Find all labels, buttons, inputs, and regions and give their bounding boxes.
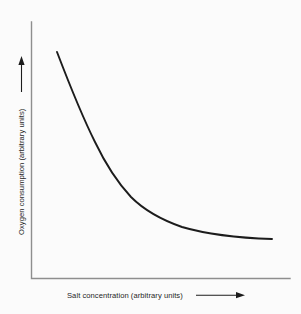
chart-axes: [32, 22, 291, 279]
x-axis-label: Salt concentration (arbitrary units): [67, 291, 183, 300]
data-curve-oxygen-consumption: [57, 52, 272, 239]
chart-figure: Oxygen consumption (arbitrary units) Sal…: [0, 0, 301, 314]
up-arrow-icon: [18, 56, 24, 92]
y-axis-label: Oxygen consumption (arbitrary units): [17, 108, 26, 235]
right-arrow-icon: [196, 292, 245, 298]
